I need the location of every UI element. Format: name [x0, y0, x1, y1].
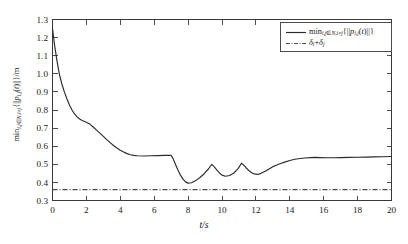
svg-text:4: 4 — [118, 205, 123, 215]
y-axis-title: mini,j∈N,i≠j{||pi,j(t)||}/m — [8, 0, 26, 210]
x-tick-labels: 0 2 4 6 8 10 12 14 16 18 20 — [50, 205, 396, 215]
svg-text:20: 20 — [387, 205, 397, 215]
svg-text:14: 14 — [285, 205, 295, 215]
legend-label-min-distance: mini,j∈N,i≠j{||pi,j(t)||} — [309, 27, 374, 36]
legend-label-threshold: δi+δj — [309, 38, 325, 47]
svg-text:0.5: 0.5 — [37, 159, 49, 169]
svg-text:2: 2 — [84, 205, 89, 215]
svg-text:0.7: 0.7 — [37, 123, 49, 133]
svg-text:1.2: 1.2 — [37, 33, 49, 43]
svg-text:18: 18 — [353, 205, 363, 215]
svg-text:10: 10 — [217, 205, 227, 215]
svg-text:0.9: 0.9 — [37, 87, 49, 97]
svg-text:0.8: 0.8 — [37, 105, 49, 115]
svg-text:0.4: 0.4 — [37, 178, 49, 188]
chart-canvas: 0.3 0.4 0.5 0.6 0.7 0.8 0.9 1.0 1.1 1.2 … — [0, 0, 408, 244]
svg-text:0: 0 — [50, 205, 55, 215]
svg-text:1.1: 1.1 — [37, 51, 49, 61]
x-axis-title: t/s — [0, 219, 408, 230]
y-tick-labels: 0.3 0.4 0.5 0.6 0.7 0.8 0.9 1.0 1.1 1.2 … — [37, 15, 49, 206]
svg-text:12: 12 — [251, 205, 261, 215]
svg-text:1.3: 1.3 — [37, 15, 49, 25]
svg-text:0.3: 0.3 — [37, 196, 49, 206]
svg-text:8: 8 — [186, 205, 191, 215]
svg-text:0.6: 0.6 — [37, 141, 49, 151]
svg-text:6: 6 — [152, 205, 157, 215]
svg-text:16: 16 — [319, 205, 329, 215]
figure-container: 0.3 0.4 0.5 0.6 0.7 0.8 0.9 1.0 1.1 1.2 … — [0, 0, 408, 244]
svg-text:1.0: 1.0 — [37, 69, 49, 79]
